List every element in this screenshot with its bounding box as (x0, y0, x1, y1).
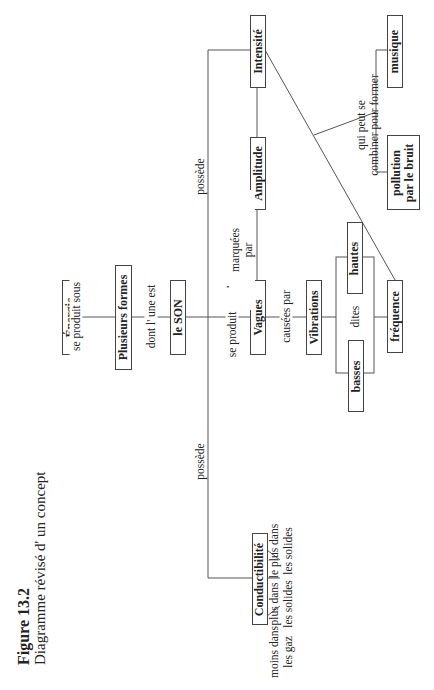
link-possede-top: possède (194, 127, 207, 227)
figure-caption: Figure 13.2 Diagramme révisé d' un conce… (15, 465, 49, 665)
link-marquees-par: marquées par (229, 190, 255, 310)
link-dont-lune-est: dont l' une est (145, 242, 158, 392)
link-line-2: combiner pour former (368, 74, 380, 176)
node-musique: musique (387, 15, 403, 88)
node-label: Vibrations (307, 290, 322, 344)
node-label: musique (388, 30, 403, 73)
figure-number: Figure 13.2 (15, 465, 32, 665)
node-pollution-par-le-bruit: pollution par le bruit (387, 135, 420, 210)
node-label: pollution par le bruit (391, 143, 417, 201)
node-plusieurs-formes: Plusieurs formes (115, 265, 132, 370)
node-frequence: fréquence (387, 280, 403, 353)
node-label: Conductibilité (253, 542, 268, 615)
link-qui-peut-se-combiner: qui peut se combiner pour former (355, 55, 381, 195)
link-line-2: les solides (282, 527, 294, 575)
link-le-plus-dans-les-solides: le plus dans les solides (267, 511, 295, 591)
node-label: fréquence (388, 291, 403, 342)
link-possede-bottom: possède (194, 412, 207, 512)
node-conductibilite: Conductibilité (252, 533, 268, 625)
link-line-1: qui peut se (355, 100, 367, 150)
link-line-2: par (242, 243, 254, 258)
link-causees-par: causées par (280, 242, 293, 392)
link-dites: dites (349, 267, 362, 367)
node-label: Plusieurs formes (116, 275, 131, 361)
node-label-line-2: par le bruit (403, 143, 417, 201)
figure-title: Diagramme révisé d' un concept (32, 465, 49, 665)
link-se-produit-sous: se produit sous (70, 242, 83, 392)
node-vibrations: Vibrations (306, 280, 322, 355)
node-intensite: Intensité (250, 15, 266, 88)
link-line-1: marquées (229, 228, 241, 272)
node-label: le SON (171, 299, 186, 335)
link-line-1: le plus dans (268, 524, 280, 578)
node-le-son: le SON (170, 280, 186, 355)
node-label: Intensité (251, 29, 266, 74)
